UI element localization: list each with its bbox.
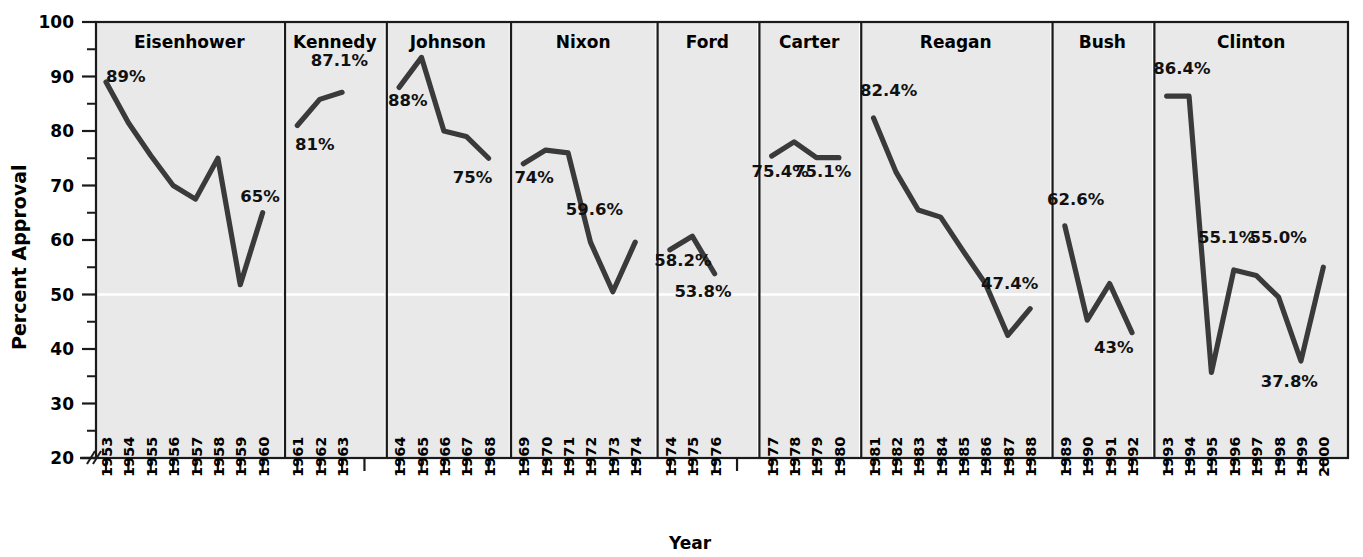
y-axis-title: Percent Approval — [8, 164, 30, 350]
panel-background-carter — [759, 22, 859, 458]
x-tick-label-1984: 1984 — [934, 437, 950, 477]
panel-title-ford: Ford — [686, 32, 729, 52]
value-label: 62.6% — [1047, 190, 1105, 209]
value-label: 65% — [240, 187, 280, 206]
x-tick-label-1988: 1988 — [1023, 437, 1039, 477]
x-tick-label-1992: 1992 — [1125, 437, 1141, 477]
panel-title-kennedy: Kennedy — [293, 32, 376, 52]
x-tick-label-1958: 1958 — [211, 437, 227, 477]
value-label: 75.1% — [794, 162, 852, 181]
x-tick-label-1985: 1985 — [956, 437, 972, 477]
x-tick-label-1994: 1994 — [1182, 437, 1198, 477]
panel-title-eisenhower: Eisenhower — [134, 32, 245, 52]
x-tick-label-1964: 1964 — [392, 437, 408, 477]
panel-background-ford — [658, 22, 758, 458]
x-tick-label-1978: 1978 — [787, 437, 803, 477]
x-tick-label-1975: 1975 — [685, 437, 701, 477]
panel-background-johnson — [387, 22, 509, 458]
value-label: 53.8% — [674, 282, 732, 301]
x-tick-label-1970: 1970 — [539, 437, 555, 477]
y-tick-label-70: 70 — [50, 176, 74, 196]
x-tick-label-1983: 1983 — [911, 437, 927, 477]
value-label: 43% — [1094, 338, 1134, 357]
x-tick-label-1977: 1977 — [765, 437, 781, 477]
x-tick-label-1991: 1991 — [1103, 437, 1119, 477]
x-tick-label-1974: 1974 — [628, 437, 644, 477]
x-tick-label-1957: 1957 — [189, 437, 205, 477]
x-tick-label-1959: 1959 — [233, 437, 249, 477]
panel-title-bush: Bush — [1079, 32, 1126, 52]
y-axis: 2030405060708090100 — [39, 12, 102, 468]
x-tick-label-1976: 1976 — [708, 437, 724, 477]
x-tick-label-1990: 1990 — [1080, 437, 1096, 477]
y-tick-label-90: 90 — [50, 67, 74, 87]
x-tick-label-1962: 1962 — [313, 437, 329, 477]
panel-title-nixon: Nixon — [556, 32, 611, 52]
x-tick-label-1966: 1966 — [437, 437, 453, 477]
x-tick-label-1996: 1996 — [1227, 437, 1243, 477]
value-label: 82.4% — [860, 81, 918, 100]
value-label: 81% — [295, 135, 335, 154]
value-label: 87.1% — [311, 51, 369, 70]
x-tick-label-1971: 1971 — [561, 437, 577, 477]
x-tick-label-1969: 1969 — [516, 437, 532, 477]
value-label: 88% — [388, 91, 428, 110]
x-tick-label-1993: 1993 — [1160, 437, 1176, 477]
x-tick-label-1968: 1968 — [482, 437, 498, 477]
x-tick-label-1982: 1982 — [889, 437, 905, 477]
panel-title-johnson: Johnson — [409, 32, 486, 52]
x-tick-label-1973: 1973 — [606, 437, 622, 477]
panel-background-nixon — [511, 22, 655, 458]
x-axis-title: Year — [668, 533, 712, 553]
x-tick-label-1960: 1960 — [256, 437, 272, 477]
panel-titles: EisenhowerKennedyJohnsonNixonFordCarterR… — [134, 32, 1285, 52]
approval-rating-chart: 2030405060708090100 19531954195519561957… — [0, 0, 1363, 557]
y-tick-label-30: 30 — [50, 394, 74, 414]
value-label: 86.4% — [1153, 59, 1211, 78]
value-label: 59.6% — [566, 200, 624, 219]
x-tick-label-1956: 1956 — [166, 437, 182, 477]
value-label: 55.1% — [1198, 228, 1256, 247]
x-tick-label-1987: 1987 — [1001, 437, 1017, 477]
x-tick-label-1999: 1999 — [1294, 437, 1310, 477]
x-tick-label-1981: 1981 — [867, 437, 883, 477]
value-label: 58.2% — [654, 251, 712, 270]
x-tick-label-1963: 1963 — [335, 437, 351, 477]
panel-backgrounds — [96, 22, 1348, 458]
x-tick-label-1974: 1974 — [663, 437, 679, 477]
panel-title-carter: Carter — [779, 32, 840, 52]
x-tick-label-1972: 1972 — [583, 437, 599, 477]
y-tick-label-60: 60 — [50, 230, 74, 250]
x-tick-label-1997: 1997 — [1249, 437, 1265, 477]
panel-title-clinton: Clinton — [1217, 32, 1285, 52]
x-tick-label-1989: 1989 — [1058, 437, 1074, 477]
panel-background-kennedy — [285, 22, 385, 458]
y-tick-label-50: 50 — [50, 285, 74, 305]
value-label: 47.4% — [981, 274, 1039, 293]
x-tick-label-1955: 1955 — [144, 437, 160, 477]
panel-title-reagan: Reagan — [920, 32, 992, 52]
x-tick-label-1954: 1954 — [121, 437, 137, 477]
y-tick-label-100: 100 — [39, 12, 75, 32]
x-tick-label-1961: 1961 — [290, 437, 306, 477]
value-label: 74% — [514, 168, 554, 187]
x-tick-label-2000: 2000 — [1316, 437, 1332, 477]
x-tick-label-1967: 1967 — [459, 437, 475, 477]
chart-root: 2030405060708090100 19531954195519561957… — [0, 0, 1363, 557]
value-label: 89% — [106, 67, 146, 86]
x-tick-label-1980: 1980 — [832, 437, 848, 477]
value-label: 55.0% — [1249, 228, 1307, 247]
x-tick-label-1979: 1979 — [809, 437, 825, 477]
x-tick-label-1995: 1995 — [1204, 437, 1220, 477]
x-tick-label-1965: 1965 — [415, 437, 431, 477]
x-tick-label-1998: 1998 — [1272, 437, 1288, 477]
value-label: 37.8% — [1261, 372, 1319, 391]
value-label: 75% — [453, 168, 493, 187]
y-tick-label-80: 80 — [50, 121, 74, 141]
y-tick-label-40: 40 — [50, 339, 74, 359]
x-tick-label-1986: 1986 — [978, 437, 994, 477]
y-tick-label-20: 20 — [50, 448, 74, 468]
x-tick-label-1953: 1953 — [99, 437, 115, 477]
